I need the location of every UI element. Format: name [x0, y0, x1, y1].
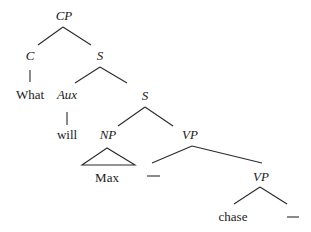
node-will: will [57, 127, 78, 142]
edge-vp-vp [192, 146, 262, 163]
node-aux: Aux [56, 87, 77, 102]
np-triangle [82, 148, 135, 165]
tree-edges [30, 27, 287, 204]
node-np: NP [99, 127, 117, 142]
node-cp: CP [56, 8, 73, 23]
edge-s-vp [145, 107, 173, 126]
node-c: C [26, 48, 35, 63]
node-vp1: VP [182, 127, 198, 142]
edge-s-np [118, 107, 145, 126]
edge-s-s [100, 67, 127, 83]
node-vp2: VP [253, 169, 269, 184]
node-max: Max [95, 170, 119, 185]
edge-cp-s [63, 27, 91, 45]
edge-vp-chase [234, 187, 260, 204]
node-s1: S [97, 48, 104, 63]
edge-vp-gap2 [260, 187, 287, 204]
node-s2: S [142, 88, 149, 103]
syntax-tree: CP C What S Aux will S NP Max VP VP chas… [0, 0, 311, 232]
edge-cp-c [38, 27, 63, 45]
edge-s-aux [75, 67, 100, 83]
node-chase: chase [219, 209, 248, 224]
node-what: What [16, 87, 45, 102]
edge-vp-gap [152, 146, 192, 163]
